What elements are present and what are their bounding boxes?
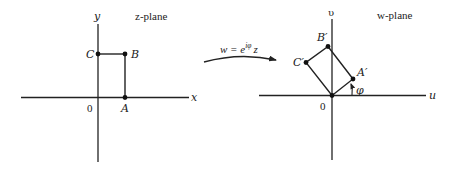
- v-axis-label: υ: [328, 7, 334, 18]
- point-B-prime-label: B′: [316, 31, 328, 44]
- u-axis-label: u: [429, 89, 436, 102]
- w-plane-origin-label: 0: [320, 100, 326, 112]
- point-origin: [330, 93, 335, 98]
- point-C: [96, 52, 101, 57]
- point-A-label: A: [120, 102, 129, 115]
- conformal-mapping-figure: x y z-plane 0 A B C w = eiφz u υ: [0, 0, 450, 173]
- angle-phi-label: φ: [356, 84, 364, 97]
- mapping-transform: w = eiφz: [204, 41, 276, 62]
- mapping-arrow: [204, 56, 276, 62]
- point-A-prime-label: A′: [356, 66, 368, 79]
- point-A: [123, 95, 128, 100]
- mapping-formula-lhs: w = e: [220, 43, 245, 55]
- point-A-prime: [351, 77, 356, 82]
- point-C-prime: [304, 60, 309, 65]
- point-C-label: C: [86, 48, 95, 61]
- point-B: [123, 52, 128, 57]
- w-plane-title: w-plane: [377, 9, 413, 21]
- point-B-label: B: [130, 48, 139, 61]
- point-C-prime-label: C′: [293, 56, 304, 69]
- mapping-formula-rhs: z: [252, 43, 258, 55]
- rotated-rectangle: [306, 47, 353, 96]
- z-plane-title: z-plane: [135, 10, 167, 22]
- angle-phi-arc: [351, 84, 352, 95]
- w-plane-diagram: u υ w-plane 0 A′ B′ C′ φ: [259, 7, 436, 160]
- mapping-formula-exponent: iφ: [245, 41, 251, 50]
- mapping-formula: w = eiφz: [220, 41, 258, 55]
- z-plane-origin-label: 0: [87, 102, 93, 114]
- x-axis-label: x: [191, 91, 198, 104]
- z-plane-diagram: x y z-plane 0 A B C: [21, 10, 198, 162]
- y-axis-label: y: [93, 10, 101, 23]
- point-B-prime: [326, 44, 331, 49]
